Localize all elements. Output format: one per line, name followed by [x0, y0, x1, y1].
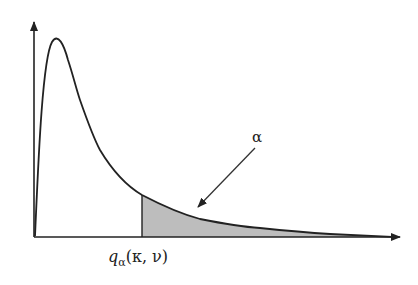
quantile-label: qα(κ, ν)	[108, 247, 168, 269]
density-curve	[35, 38, 392, 236]
alpha-label: α	[252, 128, 262, 146]
quantile-symbol: q	[108, 247, 118, 266]
shaded-tail-area	[142, 195, 392, 237]
quantile-arguments: (κ, ν)	[126, 247, 168, 266]
density-diagram: α qα(κ, ν)	[0, 0, 418, 285]
alpha-pointer-arrow	[198, 148, 255, 207]
